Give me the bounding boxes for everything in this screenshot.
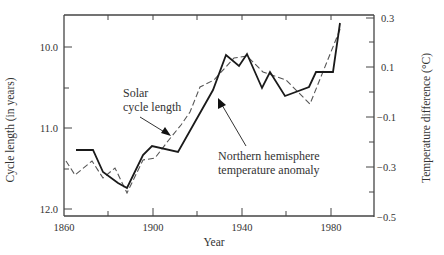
left-tick-label: 10.0 bbox=[40, 42, 58, 53]
right-ticks bbox=[366, 18, 374, 192]
nh-annotation-line1: Northern hemisphere bbox=[218, 149, 320, 163]
right-tick-label: −0.5 bbox=[377, 212, 396, 223]
nh-annotation-line2: temperature anomaly bbox=[218, 163, 320, 177]
right-tick-label: −0.3 bbox=[377, 162, 396, 173]
x-tick-label: 1900 bbox=[143, 222, 164, 233]
left-tick-label: 12.0 bbox=[40, 204, 58, 215]
x-tick-label: 1860 bbox=[54, 222, 75, 233]
x-axis-title: Year bbox=[203, 236, 224, 248]
solar-annotation-line1: Solar bbox=[123, 86, 148, 100]
chart: 1860 1900 1940 1980 10.0 11.0 12.0 0.3 0… bbox=[0, 0, 444, 255]
left-axis-title: Cycle length (in years) bbox=[4, 77, 17, 182]
x-tick-label: 1980 bbox=[321, 222, 342, 233]
x-tick-label: 1940 bbox=[232, 222, 253, 233]
right-axis-title: Temperature difference (°C) bbox=[420, 53, 433, 183]
solar-arrow-icon bbox=[140, 117, 171, 136]
right-tick-label: 0.3 bbox=[381, 13, 394, 24]
solar-annotation-line2: cycle length bbox=[123, 100, 181, 114]
nh-arrow-icon bbox=[218, 98, 246, 146]
plot-frame bbox=[64, 15, 374, 217]
right-tick-label: −0.1 bbox=[377, 112, 396, 123]
left-ticks bbox=[64, 47, 72, 209]
right-tick-label: 0.1 bbox=[381, 62, 394, 73]
left-tick-label: 11.0 bbox=[40, 123, 58, 134]
x-ticks bbox=[108, 15, 331, 216]
